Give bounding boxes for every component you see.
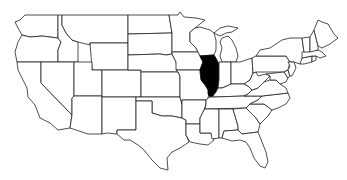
state-arizona[interactable] (70, 96, 102, 134)
state-indiana[interactable] (218, 62, 231, 88)
state-new-mexico[interactable] (102, 97, 136, 134)
us-map-svg: United States (0, 0, 347, 180)
state-pennsylvania[interactable] (252, 56, 290, 73)
state-colorado[interactable] (102, 70, 141, 97)
state-kansas[interactable] (141, 72, 180, 97)
state-michigan[interactable] (214, 26, 238, 62)
state-washington[interactable] (15, 15, 58, 38)
state-iowa[interactable] (172, 52, 203, 70)
state-oregon[interactable] (15, 35, 61, 62)
state-wyoming[interactable] (90, 43, 128, 70)
state-north-dakota[interactable] (128, 15, 172, 34)
state-south-dakota[interactable] (128, 33, 172, 55)
state-maine[interactable] (314, 20, 338, 48)
us-map: United States (0, 0, 347, 180)
state-rhode-island[interactable] (312, 56, 316, 62)
state-nebraska[interactable] (128, 54, 178, 72)
state-florida[interactable] (222, 130, 268, 168)
state-new-jersey[interactable] (288, 62, 296, 76)
